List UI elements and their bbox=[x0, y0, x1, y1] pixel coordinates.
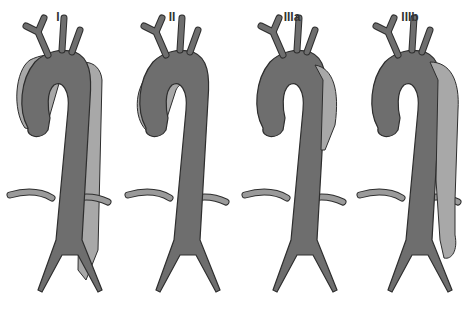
panel-label-iiia: IIIa bbox=[272, 10, 312, 24]
panel-label-ii: II bbox=[152, 10, 192, 24]
panel-type-ii bbox=[128, 18, 226, 292]
panel-type-i bbox=[10, 18, 108, 292]
panel-label-i: I bbox=[38, 10, 78, 24]
aortic-dissection-diagram bbox=[0, 0, 475, 332]
panel-label-iiib: IIIb bbox=[390, 10, 430, 24]
panel-type-iiib bbox=[360, 18, 458, 292]
panel-type-iiia bbox=[245, 18, 343, 292]
